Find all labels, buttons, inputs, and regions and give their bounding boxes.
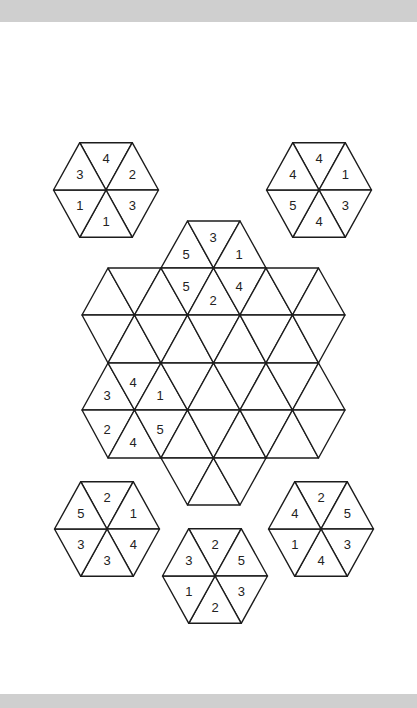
hex-piece-number: 1: [130, 506, 137, 521]
hex-piece-number: 4: [315, 151, 322, 166]
hex-piece-number: 3: [103, 553, 110, 568]
piece-top-right[interactable]: 413454: [267, 143, 372, 238]
hex-piece-number: 2: [103, 490, 110, 505]
hex-piece-number: 3: [344, 537, 351, 552]
hex-piece-number: 2: [317, 490, 324, 505]
hex-piece-number: 3: [238, 584, 245, 599]
board-cell-number: 4: [235, 279, 242, 294]
hex-piece-number: 3: [342, 198, 349, 213]
hex-piece-number: 1: [76, 198, 83, 213]
hex-piece-number: 1: [342, 167, 349, 182]
main-board: 531524341245: [82, 221, 345, 505]
hex-piece-number: 5: [289, 198, 296, 213]
hex-piece-number: 4: [291, 506, 298, 521]
hex-piece-number: 3: [76, 167, 83, 182]
hex-piece-number: 3: [129, 198, 136, 213]
hex-piece-number: 4: [315, 214, 322, 229]
piece-bottom-left[interactable]: 214335: [55, 482, 160, 577]
piece-bottom-right[interactable]: 253414: [269, 482, 374, 577]
hex-piece-number: 1: [185, 584, 192, 599]
hex-piece-number: 5: [77, 506, 84, 521]
board-cell-number: 2: [103, 422, 110, 437]
hex-piece-number: 1: [291, 537, 298, 552]
board-cell-number: 4: [129, 375, 136, 390]
hex-piece-number: 3: [185, 553, 192, 568]
board-cell-number: 1: [156, 388, 163, 403]
board-cell-number: 4: [129, 435, 136, 450]
board-cell-number: 5: [156, 422, 163, 437]
hex-piece-number: 2: [211, 600, 218, 615]
hex-piece-number: 2: [211, 537, 218, 552]
hex-piece-number: 1: [102, 214, 109, 229]
hex-piece-number: 4: [317, 553, 324, 568]
hex-piece-number: 4: [289, 167, 296, 182]
puzzle-canvas: 531524341245 423113413454214335253213253…: [0, 0, 417, 708]
hex-piece-number: 4: [102, 151, 109, 166]
hex-piece-number: 5: [344, 506, 351, 521]
board-cell-number: 3: [209, 230, 216, 245]
board-cell-number: 5: [182, 279, 189, 294]
piece-top-left[interactable]: 423113: [54, 143, 159, 238]
board-cell-number: 1: [235, 247, 242, 262]
hex-piece-number: 4: [130, 537, 137, 552]
board-cell-number: 2: [209, 293, 216, 308]
board-cell-number: 5: [182, 247, 189, 262]
hex-piece-number: 3: [77, 537, 84, 552]
hex-piece-number: 5: [238, 553, 245, 568]
hex-piece-number: 2: [129, 167, 136, 182]
board-cell-number: 3: [103, 388, 110, 403]
piece-bottom-center[interactable]: 253213: [163, 529, 268, 624]
